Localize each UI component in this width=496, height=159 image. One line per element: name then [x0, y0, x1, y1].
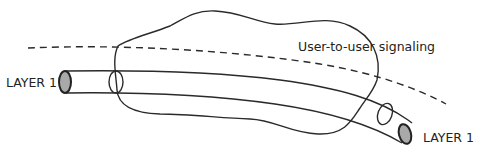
signaling-label: User-to-user signaling — [298, 39, 435, 54]
layer-1-right-label: LAYER 1 — [423, 130, 474, 145]
user-to-user-signaling-diagram: LAYER 1 LAYER 1 User-to-user signaling — [0, 0, 496, 159]
layer-1-left-label: LAYER 1 — [6, 75, 57, 90]
tube-cross-section-right — [375, 101, 396, 126]
network-cloud — [115, 11, 378, 134]
layer-1-left-end-cap — [59, 71, 71, 93]
